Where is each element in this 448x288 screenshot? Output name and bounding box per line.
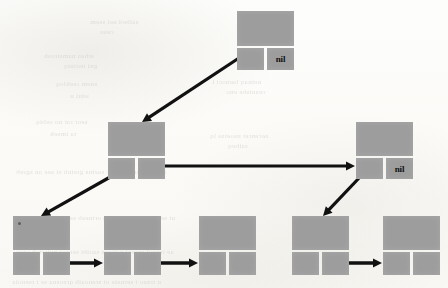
bleed-text: gni teoiniq	[64, 62, 97, 70]
leaf-node-2-value-box	[104, 216, 161, 250]
bleed-text: saibeq	[228, 142, 248, 150]
leaf-node-2-cdr-cell	[134, 252, 161, 275]
bleed-text: sdni u	[70, 92, 89, 100]
mid-left-node-cdr-cell	[138, 158, 165, 179]
leaf-node-4-value-box	[292, 216, 349, 250]
root-node-car-cell	[237, 48, 264, 70]
leaf-node-3-car-cell	[199, 252, 226, 275]
arrow-mid-left-to-mid-right	[141, 161, 355, 170]
arrow-mid-left-to-leaf-1	[41, 176, 112, 216]
arrow-mid-right-to-leaf-4	[323, 177, 360, 216]
leaf-node-3-cdr-cell	[229, 252, 256, 275]
leaf-node-5-car-cell	[383, 252, 410, 275]
bleed-text: srhea namsirosh	[44, 52, 94, 60]
leaf-node-1-value-box	[13, 216, 70, 250]
root-node-value-box	[237, 11, 294, 46]
leaf-node-3-value-box	[199, 216, 256, 250]
leaf-node-4-car-cell	[292, 252, 319, 275]
root-node-cdr-cell: nil	[267, 48, 294, 70]
leaf-node-1-cdr-cell	[43, 252, 70, 275]
ink-speck-leaf-1	[18, 222, 21, 225]
arrow-root-to-mid-left	[142, 58, 239, 122]
bleed-text: ceus	[100, 28, 114, 36]
diagram-canvas: saibed nei ssemceussrhea namsiroshgni te…	[0, 0, 448, 288]
leaf-node-5-cdr-cell	[413, 252, 440, 275]
bleed-text: aecenret nsoetas lq	[210, 132, 269, 140]
mid-left-node-value-box	[108, 122, 165, 156]
mid-right-node-cdr-cell: nil	[386, 158, 413, 179]
bleed-text: snem reehloq	[56, 80, 97, 88]
bleed-text: n traeo t sernaie ot srenoaib qreosna se…	[12, 278, 161, 286]
leaf-node-1-car-cell	[13, 252, 40, 275]
mid-right-node-car-cell	[356, 158, 383, 179]
bleed-text: saibed nei ssem	[90, 18, 138, 26]
mid-right-node-value-box	[356, 122, 413, 156]
leaf-node-5-value-box	[383, 216, 440, 250]
mid-left-node-car-cell	[108, 158, 135, 179]
leaf-node-2-car-cell	[104, 252, 131, 275]
bleed-text: ta imseh	[50, 130, 76, 138]
leaf-node-4-cdr-cell	[322, 252, 349, 275]
bleed-text: neinaq laenoct i	[212, 78, 261, 86]
bleed-text: ceanisbe eno	[226, 88, 266, 96]
bleed-text: seor rat no osbiq	[36, 118, 88, 126]
